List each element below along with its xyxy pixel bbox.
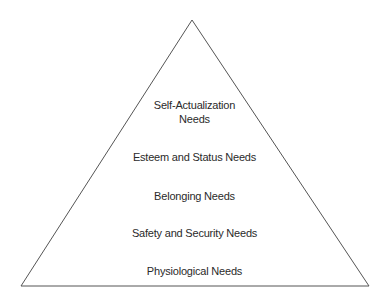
level-physiological: Physiological Needs <box>0 264 389 278</box>
level-self-actualization-line1: Self-Actualization <box>0 98 389 112</box>
level-self-actualization-line2: Needs <box>0 112 389 126</box>
level-safety: Safety and Security Needs <box>0 226 389 240</box>
level-belonging: Belonging Needs <box>0 189 389 203</box>
level-esteem: Esteem and Status Needs <box>0 150 389 164</box>
level-self-actualization: Self-Actualization Needs <box>0 98 389 126</box>
